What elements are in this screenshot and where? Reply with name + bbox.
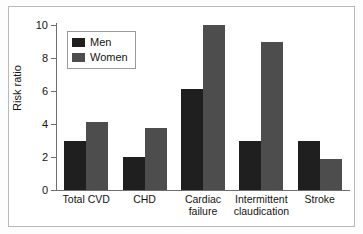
bar-women-total-cvd: [86, 122, 108, 190]
legend-item-men: Men: [72, 35, 128, 50]
bar-women-intermittent-claudication: [261, 42, 283, 191]
y-axis-tick-labels: 0246810: [0, 0, 48, 234]
y-axis-tick-label: 6: [42, 86, 48, 97]
women-swatch-icon: [72, 53, 85, 62]
y-axis-tick-label: 8: [42, 53, 48, 64]
legend-label-men: Men: [90, 37, 111, 48]
x-axis-category-labels: Total CVDCHDCardiac failureIntermittent …: [57, 193, 349, 231]
y-axis-tick-label: 0: [42, 185, 48, 196]
bar-men-total-cvd: [64, 141, 86, 191]
bar-men-chd: [123, 157, 145, 190]
y-axis-tick-mark: [51, 58, 57, 59]
bar-men-stroke: [298, 141, 320, 191]
legend-label-women: Women: [90, 52, 128, 63]
bar-men-intermittent-claudication: [239, 141, 261, 191]
y-axis-tick-mark: [51, 157, 57, 158]
y-axis-tick-label: 4: [42, 119, 48, 130]
y-axis-tick-mark: [51, 190, 57, 191]
bar-men-cardiac-failure: [181, 89, 203, 190]
men-swatch-icon: [72, 38, 85, 47]
bar-chart-figure: Risk ratio 0246810 Total CVDCHDCardiac f…: [0, 0, 363, 234]
y-axis-tick-mark: [51, 91, 57, 92]
bar-women-chd: [145, 128, 167, 190]
y-axis-tick-mark: [51, 25, 57, 26]
chart-legend: Men Women: [67, 31, 136, 69]
x-axis-line: [56, 190, 350, 191]
x-axis-label-stroke: Stroke: [283, 193, 357, 205]
y-axis-tick-label: 2: [42, 152, 48, 163]
y-axis-tick-mark: [51, 124, 57, 125]
bar-women-cardiac-failure: [203, 25, 225, 190]
bar-women-stroke: [320, 159, 342, 190]
legend-item-women: Women: [72, 50, 128, 65]
y-axis-tick-label: 10: [36, 20, 48, 31]
